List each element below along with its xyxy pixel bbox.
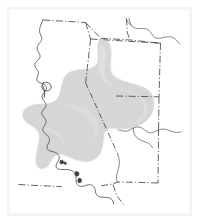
border-mexico-interior: [113, 185, 124, 206]
border-california-oregon: [43, 20, 85, 23]
border-mexico-west-stub: [19, 185, 63, 187]
border-usa-mexico: [100, 182, 158, 186]
border-utah-colorado: [159, 43, 161, 97]
channel-island-3: [75, 172, 79, 177]
border-idaho-oregon: [101, 38, 161, 43]
channel-island-1: [60, 160, 64, 164]
range-map-figure: Distribution range map of the southweste…: [0, 0, 199, 223]
channel-island-2: [64, 162, 66, 164]
snake-river: [126, 19, 180, 44]
border-newmexico-mexico: [158, 129, 159, 183]
map-canvas: [0, 0, 199, 223]
channel-island-4: [78, 178, 82, 183]
border-oregon-nevada-idaho: [86, 23, 101, 39]
san-francisco-bay-inlet: [43, 86, 45, 98]
gila-river-branch: [133, 128, 152, 148]
colorado-river-lower: [117, 153, 120, 182]
